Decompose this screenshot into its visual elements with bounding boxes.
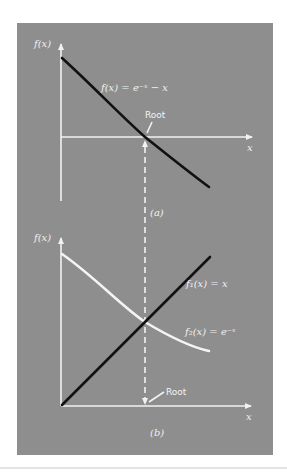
root-location-figure: f(x) x f(x) = e⁻ˣ − x Root (a) f(x) x f₁…	[0, 0, 287, 475]
chart-a-curve-label: f(x) = e⁻ˣ − x	[100, 82, 168, 93]
chart-b-curve2-label: f₂(x) = e⁻ˣ	[184, 326, 236, 337]
chart-b-root-label: Root	[166, 387, 187, 397]
chart-a-caption: (a)	[150, 207, 164, 218]
chart-b-curve1-label: f₁(x) = x	[185, 278, 228, 289]
chart-b-x-label: x	[246, 411, 252, 422]
chart-b-y-label: f(x)	[33, 232, 51, 243]
chart-a-root-label: Root	[145, 110, 166, 120]
chart-b-caption: (b)	[150, 427, 164, 438]
chart-a-y-label: f(x)	[33, 38, 51, 49]
chart-a-x-label: x	[247, 142, 253, 153]
